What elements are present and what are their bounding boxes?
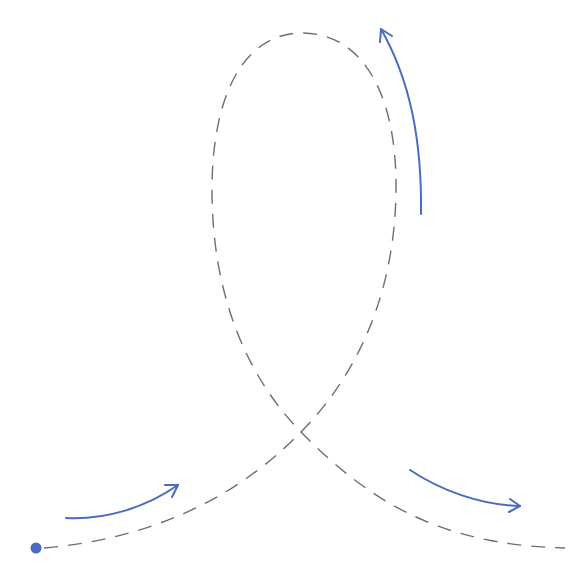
start-point-dot bbox=[31, 543, 42, 554]
loop-path-diagram bbox=[0, 0, 581, 584]
direction-arrow-entry-icon bbox=[66, 485, 178, 518]
dashed-loop-path bbox=[44, 33, 565, 548]
direction-arrow-exit-icon bbox=[410, 470, 520, 512]
direction-arrow-up-icon bbox=[380, 29, 421, 214]
